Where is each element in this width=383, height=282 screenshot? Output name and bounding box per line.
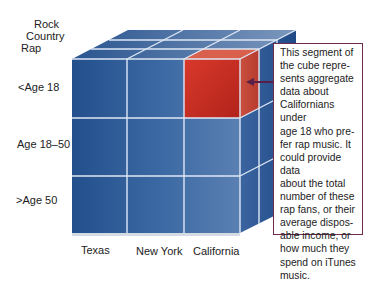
- callout-line: number of these: [280, 190, 359, 203]
- callout-line: music.: [280, 269, 359, 282]
- state-label-new-york: New York: [136, 245, 182, 257]
- state-label-texas: Texas: [81, 244, 110, 256]
- highlight-cell-front: [184, 59, 240, 118]
- age-label-over-50: >Age 50: [16, 194, 57, 206]
- genre-label-rock: Rock: [34, 18, 59, 30]
- state-label-california: California: [193, 245, 239, 257]
- callout-line: Californians under: [280, 98, 359, 124]
- callout-line: spend on iTunes: [280, 256, 359, 269]
- callout-line: This segment of: [280, 46, 359, 59]
- callout-line: age 18 who pre-: [280, 125, 359, 138]
- callout-line: average dispos-: [280, 216, 359, 229]
- callout-line: sents aggregate: [280, 72, 359, 85]
- callout-line: rap fans, or their: [280, 203, 359, 216]
- genre-label-country: Country: [26, 30, 65, 42]
- age-label-18-50: Age 18–50: [17, 138, 70, 150]
- callout-line: data about: [280, 85, 359, 98]
- age-label-under-18: <Age 18: [18, 81, 59, 93]
- callout-line: could provide data: [280, 151, 359, 177]
- callout-line: fer rap music. It: [280, 138, 359, 151]
- callout-box: This segment of the cube repre- sents ag…: [273, 43, 363, 235]
- callout-line: how much they: [280, 242, 359, 255]
- callout-line: able income, or: [280, 229, 359, 242]
- callout-line: the cube repre-: [280, 59, 359, 72]
- callout-line: about the total: [280, 177, 359, 190]
- genre-label-rap: Rap: [21, 42, 41, 54]
